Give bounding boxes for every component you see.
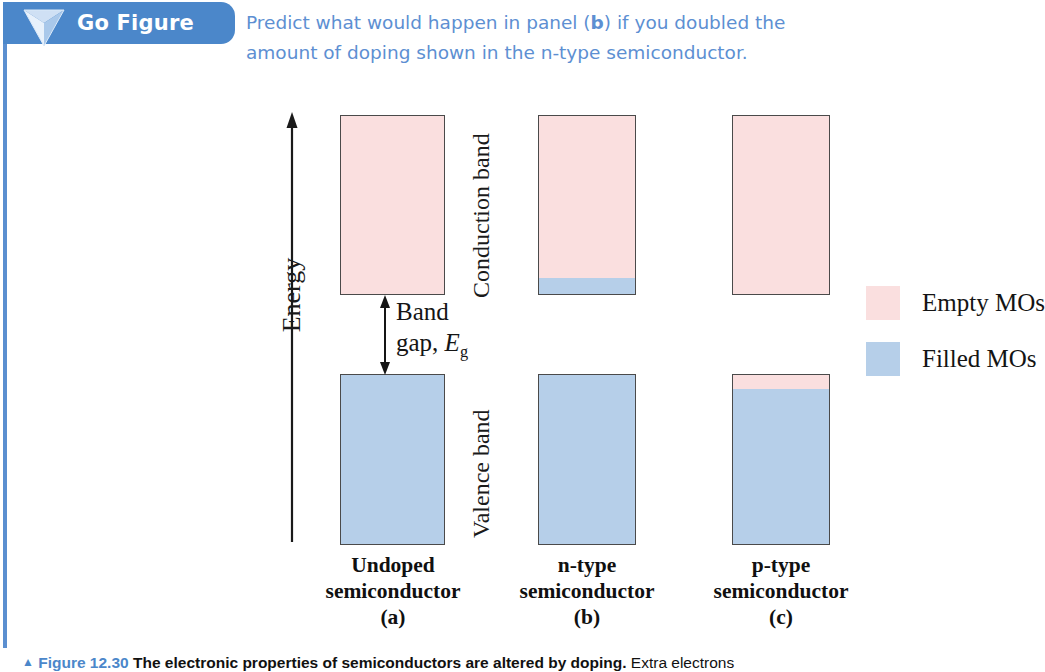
- valence-band-side-text: Valence band: [468, 409, 494, 538]
- legend-label-filled: Filled MOs: [922, 345, 1037, 373]
- empty-mo-fill-c-acceptor: [733, 375, 829, 389]
- band-gap-symbol: E: [445, 329, 460, 356]
- valence-band-c: [732, 374, 830, 545]
- go-figure-question: Predict what would happen in panel (b) i…: [246, 8, 866, 68]
- go-figure-label: Go Figure: [77, 11, 194, 35]
- panel-caption-c: p-type semiconductor (c): [666, 552, 896, 630]
- caption-lead-sentence: The electronic properties of semiconduct…: [133, 654, 627, 671]
- valence-band-b: [538, 374, 636, 545]
- panel-a-line3: (a): [380, 605, 405, 629]
- empty-mo-swatch: [866, 286, 900, 320]
- conduction-band-side-text: Conduction band: [468, 133, 494, 298]
- panel-b-line1: n-type: [558, 553, 617, 577]
- band-gap-subscript: g: [460, 343, 468, 361]
- question-line1-after: ) if you doubled the: [604, 12, 786, 33]
- panel-b-line2: semiconductor: [520, 579, 655, 603]
- filled-mo-fill-b-donor: [539, 278, 635, 294]
- panel-a-line1: Undoped: [351, 553, 435, 577]
- conduction-band-side-label: Conduction band: [468, 133, 495, 298]
- question-panel-ref: b: [591, 12, 604, 33]
- filled-mo-swatch: [866, 342, 900, 376]
- conduction-band-b: [538, 115, 636, 295]
- conduction-band-a: [340, 115, 445, 295]
- empty-mo-fill-b: [539, 116, 635, 278]
- caption-rest: Extra electrons: [627, 654, 735, 671]
- panel-c-line1: p-type: [752, 553, 811, 577]
- legend-item-filled: Filled MOs: [866, 331, 1045, 387]
- legend: Empty MOs Filled MOs: [866, 275, 1045, 387]
- filled-mo-fill-b: [539, 375, 635, 544]
- semiconductor-band-diagram: Energy Conduction band Valence band Band…: [0, 90, 1027, 640]
- valence-band-a: [340, 374, 445, 545]
- caption-triangle-icon: ▲: [22, 655, 34, 669]
- panel-b-line3: (b): [574, 605, 600, 629]
- empty-mo-fill-a: [341, 116, 444, 294]
- panel-c-line2: semiconductor: [714, 579, 849, 603]
- filled-mo-fill-a: [341, 375, 444, 544]
- caption-figure-number: Figure 12.30: [38, 654, 128, 671]
- legend-item-empty: Empty MOs: [866, 275, 1045, 331]
- question-line2: amount of doping shown in the n-type sem…: [246, 42, 748, 63]
- band-gap-line1: Band: [396, 298, 449, 325]
- panel-a-line2: semiconductor: [326, 579, 461, 603]
- valence-band-side-label: Valence band: [468, 409, 495, 538]
- band-gap-label: Band gap, Eg: [396, 296, 468, 368]
- question-line1-before: Predict what would happen in panel (: [246, 12, 591, 33]
- band-gap-double-arrow: [378, 295, 392, 375]
- figure-caption: ▲ Figure 12.30 The electronic properties…: [22, 652, 1012, 672]
- filled-mo-fill-c: [733, 389, 829, 544]
- legend-label-empty: Empty MOs: [922, 289, 1045, 317]
- conduction-band-c: [732, 115, 830, 295]
- panel-c-line3: (c): [769, 605, 793, 629]
- inverted-pyramid-icon: [21, 6, 67, 48]
- energy-axis-label: Energy: [277, 235, 307, 355]
- band-gap-line2-prefix: gap,: [396, 329, 445, 356]
- go-figure-banner: Go Figure: [3, 2, 235, 44]
- empty-mo-fill-c: [733, 116, 829, 294]
